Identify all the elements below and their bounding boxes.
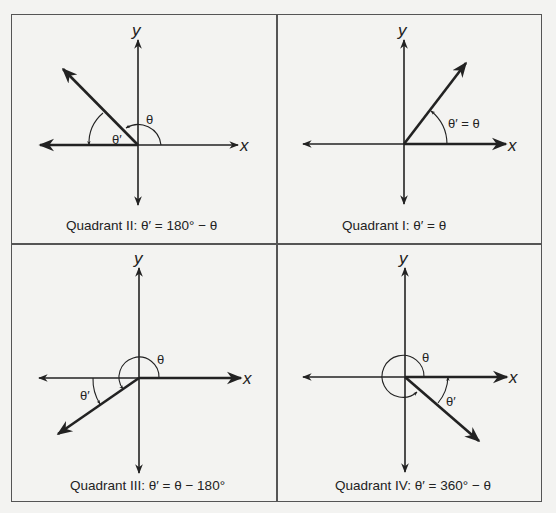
quadrant-3-diagram: y x θ θ′: [0, 240, 276, 513]
terminal-ray: [404, 63, 466, 144]
y-axis-label: y: [397, 21, 408, 40]
panel-quadrant-2: y x θ θ′ Quadrant II: θ′ = 180° − θ: [0, 0, 276, 243]
theta-prime-label: θ′: [112, 132, 122, 147]
terminal-ray: [63, 69, 138, 145]
y-axis-label: y: [398, 249, 409, 268]
caption-quadrant-3: Quadrant III: θ′ = θ − 180°: [70, 478, 225, 493]
panel-quadrant-3: y x θ θ′ Quadrant III: θ′ = θ − 180°: [0, 240, 276, 513]
theta-label: θ: [157, 352, 164, 367]
theta-prime-arc: [89, 113, 103, 145]
theta-prime-arc: [93, 378, 100, 404]
theta-prime-label: θ′: [80, 388, 90, 403]
x-axis-label: x: [507, 136, 517, 155]
caption-quadrant-4: Quadrant IV: θ′ = 360° − θ: [335, 478, 491, 493]
y-axis-label: y: [131, 21, 142, 40]
panel-quadrant-1: y x θ′ = θ Quadrant I: θ′ = θ: [270, 0, 556, 243]
quadrant-1-diagram: y x θ′ = θ: [270, 0, 556, 243]
theta-label: θ: [146, 112, 153, 127]
y-axis-label: y: [133, 249, 144, 268]
caption-quadrant-2: Quadrant II: θ′ = 180° − θ: [66, 218, 217, 233]
caption-quadrant-1: Quadrant I: θ′ = θ: [342, 218, 446, 233]
terminal-ray: [405, 377, 479, 441]
x-axis-label: x: [508, 368, 518, 387]
theta-label: θ: [422, 350, 429, 365]
angle-arc: [431, 111, 447, 144]
theta-arc: [126, 125, 161, 145]
terminal-ray: [58, 378, 139, 434]
angle-label: θ′ = θ: [448, 116, 480, 131]
x-axis-label: x: [242, 369, 252, 388]
panel-quadrant-4: y x θ θ′ Quadrant IV: θ′ = 360° − θ: [270, 240, 556, 513]
quadrant-2-diagram: y x θ θ′: [0, 0, 276, 243]
theta-prime-label: θ′: [446, 394, 456, 409]
quadrant-4-diagram: y x θ θ′: [270, 240, 556, 513]
x-axis-label: x: [239, 136, 249, 155]
